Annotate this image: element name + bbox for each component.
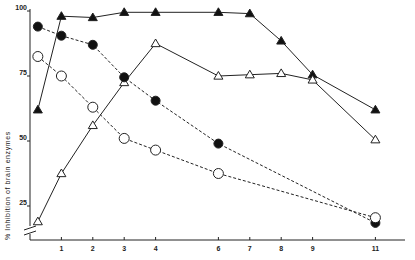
filled-circle-marker <box>151 96 160 105</box>
series-line <box>38 44 376 222</box>
open-triangle-marker <box>277 69 286 77</box>
x-tick-label: 4 <box>154 245 158 252</box>
series-filled-circle <box>33 22 380 227</box>
open-circle-marker <box>56 71 66 81</box>
filled-circle-marker <box>88 40 97 49</box>
line-chart: 1234678911255075100 % Inhibition of brai… <box>0 0 415 260</box>
filled-triangle-marker <box>120 8 129 16</box>
filled-triangle-marker <box>33 105 42 113</box>
open-circle-marker <box>370 213 380 223</box>
filled-circle-marker <box>214 139 223 148</box>
series-line <box>38 27 376 223</box>
open-triangle-marker <box>214 72 223 80</box>
x-tick-label: 8 <box>279 245 283 252</box>
series-open-triangle <box>33 39 380 225</box>
axes: 1234678911255075100 <box>15 4 405 252</box>
series-filled-triangle <box>33 8 380 113</box>
x-tick-label: 2 <box>91 245 95 252</box>
series-line <box>38 12 376 110</box>
x-tick-label: 6 <box>216 245 220 252</box>
open-triangle-marker <box>151 39 160 47</box>
filled-circle-marker <box>57 31 66 40</box>
axis-break-mark <box>24 226 36 230</box>
filled-triangle-marker <box>214 8 223 16</box>
x-tick-label: 11 <box>372 245 380 252</box>
filled-circle-marker <box>33 22 42 31</box>
open-circle-marker <box>33 52 43 62</box>
open-triangle-marker <box>245 70 254 78</box>
x-tick-label: 3 <box>122 245 126 252</box>
x-tick-label: 7 <box>248 245 252 252</box>
series-line <box>38 57 376 218</box>
y-tick-label: 25 <box>19 199 27 206</box>
open-circle-marker <box>88 102 98 112</box>
y-tick-label: 75 <box>19 69 27 76</box>
filled-circle-marker <box>120 73 129 82</box>
filled-triangle-marker <box>151 8 160 16</box>
open-triangle-marker <box>57 169 66 177</box>
y-tick-label: 100 <box>15 4 27 11</box>
x-tick-label: 1 <box>59 245 63 252</box>
filled-triangle-marker <box>371 105 380 113</box>
open-circle-marker <box>213 169 223 179</box>
open-triangle-marker <box>88 121 97 129</box>
open-triangle-marker <box>33 217 42 225</box>
filled-triangle-marker <box>57 12 66 20</box>
filled-triangle-marker <box>245 9 254 17</box>
x-tick-label: 9 <box>311 245 315 252</box>
series-layer <box>33 8 381 228</box>
y-tick-label: 50 <box>19 134 27 141</box>
open-circle-marker <box>119 133 129 143</box>
y-axis-label: % Inhibition of brain enzymes <box>4 131 12 240</box>
open-circle-marker <box>151 145 161 155</box>
